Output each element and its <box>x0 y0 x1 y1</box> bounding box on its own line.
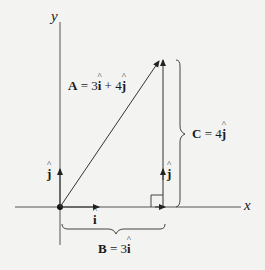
brace-c <box>176 60 185 207</box>
vector-a-plus: + <box>105 78 112 93</box>
j-hat-symbol: j <box>122 78 126 94</box>
unit-i-label: i <box>93 212 97 228</box>
j-hat-symbol: j <box>222 126 226 142</box>
j-hat-symbol: j <box>47 166 51 182</box>
vector-diagram: y x A = 3i + 4j C = 4j B = 3i j j i <box>0 0 265 270</box>
vector-c-name: C <box>192 126 201 141</box>
unit-j-origin-label: j <box>47 166 51 182</box>
i-hat-symbol: i <box>127 241 131 257</box>
i-hat-symbol: i <box>93 212 97 228</box>
vector-a-label: A = 3i + 4j <box>68 78 126 94</box>
vector-c-equals: = <box>205 126 212 141</box>
brace-b <box>62 224 165 234</box>
vector-b-name: B <box>98 241 107 256</box>
vector-a-name: A <box>68 78 77 93</box>
j-hat-symbol: j <box>167 166 171 182</box>
vector-a-equals: = <box>81 78 88 93</box>
vector-c-label: C = 4j <box>192 126 226 142</box>
right-angle-marker <box>151 195 163 207</box>
i-hat-symbol: i <box>98 78 102 94</box>
vector-b-label: B = 3i <box>98 241 131 257</box>
x-axis-label: x <box>244 197 251 214</box>
y-axis-label: y <box>51 8 58 25</box>
unit-j-right-label: j <box>167 166 171 182</box>
vector-b-equals: = <box>110 241 117 256</box>
